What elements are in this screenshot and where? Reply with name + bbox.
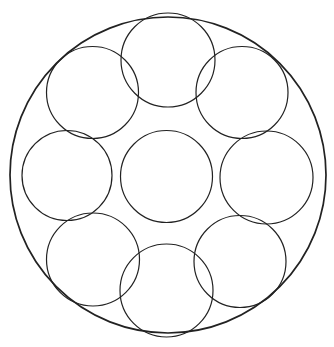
inner-circle-top-right (196, 47, 288, 139)
inner-circle-right (220, 131, 313, 224)
inner-circle-center (121, 131, 213, 223)
inner-circles-group (22, 13, 313, 337)
inner-circle-bottom-right (194, 216, 286, 308)
inner-circle-left (22, 131, 112, 221)
inner-circle-top-left (47, 47, 139, 139)
circle-packing-diagram (0, 0, 334, 347)
inner-circle-top (121, 13, 215, 107)
inner-circle-bottom-left (47, 213, 140, 306)
inner-circle-bottom (120, 244, 213, 337)
